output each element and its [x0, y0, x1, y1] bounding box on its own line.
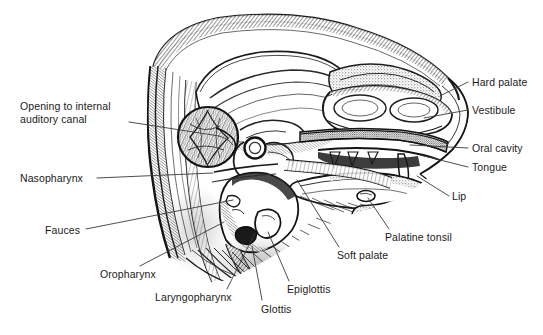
figure-canvas: Opening to internal auditory canalNasoph…	[0, 0, 543, 335]
label-lip: Lip	[452, 190, 466, 203]
label-hard-palate: Hard palate	[472, 76, 527, 89]
label-glottis: Glottis	[261, 303, 291, 316]
label-opening-to-internal-auditory-canal: Opening to internal auditory canal	[20, 100, 111, 126]
leader-line-lip	[417, 176, 449, 196]
illustration-strokes	[140, 0, 480, 300]
label-tongue: Tongue	[472, 161, 507, 174]
label-palatine-tonsil: Palatine tonsil	[385, 231, 452, 244]
label-nasopharynx: Nasopharynx	[20, 172, 83, 185]
label-soft-palate: Soft palate	[337, 249, 388, 262]
label-oropharynx: Oropharynx	[100, 268, 156, 281]
label-oral-cavity: Oral cavity	[472, 142, 523, 155]
label-vestibule: Vestibule	[472, 104, 516, 117]
label-laryngopharynx: Laryngopharynx	[155, 291, 232, 304]
head-anatomy-illustration	[0, 0, 543, 335]
label-epiglottis: Epiglottis	[287, 283, 331, 296]
label-fauces: Fauces	[45, 224, 80, 237]
